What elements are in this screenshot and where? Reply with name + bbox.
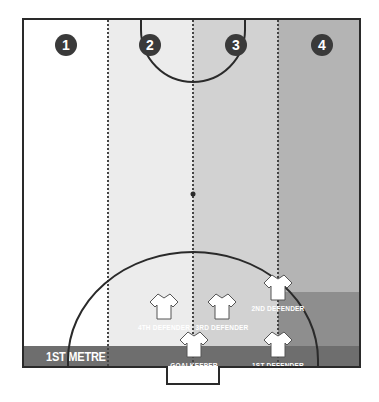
shirt-icon [262,330,294,358]
goal [166,366,220,385]
zone-number-2: 2 [139,34,161,56]
player-2nd-defender[interactable]: 2ND DEFENDER [243,273,313,312]
player-1st-defender[interactable]: 1ST DEFENDER [243,330,313,368]
zone-number-4: 4 [311,34,333,56]
court: 1ST METRE 1 2 3 4 4TH DEFENDER 3RD DEFEN… [22,18,361,368]
player-label: 2ND DEFENDER [243,305,313,312]
shirt-icon [206,292,238,320]
zone-number-1: 1 [55,34,77,56]
player-goalkeeper[interactable]: GOALKEEPER [159,330,229,368]
zone-number-3: 3 [225,34,247,56]
shirt-icon [178,330,210,358]
shirt-icon [148,292,180,320]
shirt-icon [262,273,294,301]
player-label: 1ST DEFENDER [243,362,313,368]
